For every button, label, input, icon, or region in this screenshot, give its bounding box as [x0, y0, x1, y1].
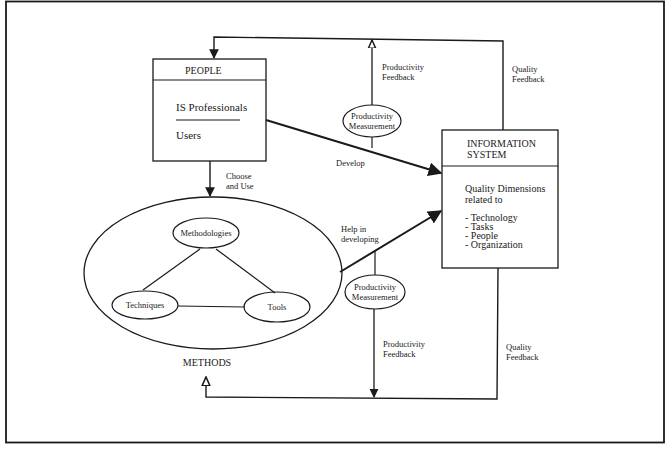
connector-methodologies-techniques	[143, 249, 200, 290]
people-box: PEOPLE IS Professionals Users	[153, 59, 266, 161]
connector-techniques-tools	[178, 306, 245, 307]
methodologies-label: Methodologies	[181, 228, 232, 238]
methods-label: METHODS	[183, 357, 231, 368]
label-develop: Develop	[336, 158, 365, 168]
methods-ellipse	[84, 197, 342, 349]
tools-label: Tools	[268, 302, 287, 312]
pm-bottom-line1: Productivity	[354, 282, 397, 292]
label-pf-top-line2: Feedback	[382, 72, 415, 82]
is-subtitle-line1: Quality Dimensions	[465, 183, 545, 194]
is-dimension-organization: - Organization	[465, 239, 523, 250]
label-pf-top-line1: Productivity	[382, 62, 425, 72]
pm-top-line2: Measurement	[349, 121, 396, 131]
techniques-label: Techniques	[126, 300, 165, 310]
diagram-canvas: PEOPLE IS Professionals Users INFORMATIO…	[0, 0, 672, 455]
is-subtitle-line2: related to	[465, 194, 502, 205]
label-qf-bottom-line2: Feedback	[506, 352, 539, 362]
pm-bottom-line2: Measurement	[352, 292, 399, 302]
label-qf-top-line2: Feedback	[512, 74, 545, 84]
label-pf-bottom-line1: Productivity	[383, 339, 426, 349]
connector-methodologies-tools	[216, 249, 275, 293]
label-qf-bottom-line1: Quality	[506, 342, 532, 352]
outer-frame	[6, 2, 664, 443]
people-item-is-professionals: IS Professionals	[176, 101, 247, 113]
label-choose-line2: and Use	[226, 181, 254, 191]
arrow-quality-feedback-bottom	[206, 268, 498, 399]
pm-top-line1: Productivity	[351, 111, 394, 121]
people-title: PEOPLE	[185, 65, 222, 76]
label-help-line1: Help in	[341, 224, 367, 234]
label-qf-top-line1: Quality	[512, 64, 538, 74]
label-choose-line1: Choose	[226, 171, 252, 181]
information-system-box: INFORMATION SYSTEM Quality Dimensions re…	[442, 130, 558, 268]
people-item-users: Users	[176, 129, 201, 141]
is-title-line1: INFORMATION	[467, 138, 536, 149]
label-pf-bottom-line2: Feedback	[383, 349, 416, 359]
is-title-line2: SYSTEM	[467, 149, 507, 160]
methods-group: Methodologies Techniques Tools METHODS	[84, 197, 342, 368]
label-help-line2: developing	[341, 234, 380, 244]
